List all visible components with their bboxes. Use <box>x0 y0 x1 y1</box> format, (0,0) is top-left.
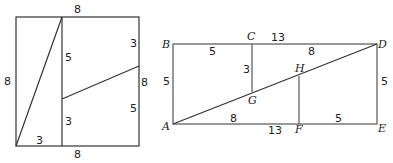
label-CD-total: 13 <box>271 31 285 44</box>
point-D: D <box>377 38 387 51</box>
left-label-inner-lower: 3 <box>65 115 72 128</box>
point-G: G <box>248 94 257 107</box>
label-AF-segment: 8 <box>230 112 237 125</box>
left-label-bottom: 8 <box>74 148 81 161</box>
left-label-right: 8 <box>141 76 148 89</box>
left-label-right-upper: 3 <box>130 37 137 50</box>
point-F: F <box>294 123 303 136</box>
left-square-outline <box>16 17 139 146</box>
left-label-left: 8 <box>4 75 11 88</box>
diagram-canvas: 8 8 8 8 3 5 3 3 5 B C D A E F G H 5 13 8… <box>0 0 393 163</box>
point-E: E <box>377 122 386 135</box>
label-CD-segment: 8 <box>308 45 315 58</box>
left-diagonal <box>16 17 62 146</box>
label-AE-total: 13 <box>268 124 282 137</box>
left-label-top: 8 <box>74 3 81 16</box>
right-figure: B C D A E F G H 5 13 8 5 3 5 8 13 5 <box>161 30 388 137</box>
label-FE: 5 <box>335 112 342 125</box>
point-C: C <box>247 30 256 43</box>
point-A: A <box>161 120 170 133</box>
left-label-bottom-left: 3 <box>36 134 43 147</box>
left-figure: 8 8 8 8 3 5 3 3 5 <box>4 3 148 161</box>
label-CG: 3 <box>243 63 250 76</box>
point-B: B <box>161 38 170 51</box>
left-label-right-lower: 5 <box>130 102 137 115</box>
label-AB: 5 <box>163 75 170 88</box>
label-BC: 5 <box>209 45 216 58</box>
label-DE: 5 <box>381 75 388 88</box>
diagonal-AD <box>173 44 377 124</box>
point-H: H <box>294 62 305 75</box>
left-label-inner-upper: 5 <box>65 51 72 64</box>
left-slant-cut <box>62 66 139 99</box>
